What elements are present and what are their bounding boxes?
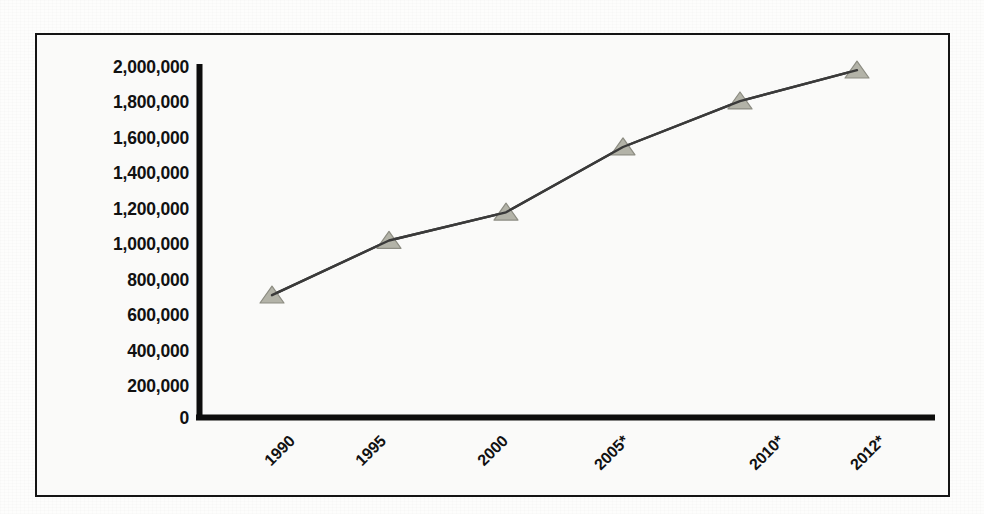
chart-figure: 2,000,000 1,800,000 1,600,000 1,400,000 …: [0, 0, 984, 514]
plot-canvas: [0, 0, 984, 514]
data-series-line: [272, 70, 857, 295]
data-point-markers: [260, 61, 869, 303]
data-series-line: [272, 70, 857, 295]
